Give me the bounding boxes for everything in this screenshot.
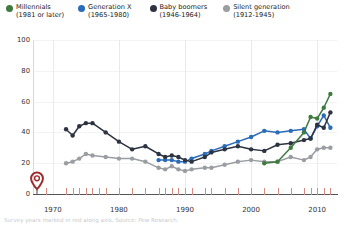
data-point xyxy=(289,129,293,133)
data-point xyxy=(70,133,74,137)
data-point xyxy=(189,159,193,163)
legend-dot-icon xyxy=(150,5,157,12)
data-point xyxy=(156,158,160,162)
legend-item-generation-x[interactable]: Generation X (1965-1980) xyxy=(78,3,131,19)
data-point xyxy=(308,115,312,119)
data-point xyxy=(302,130,306,134)
data-point xyxy=(84,121,88,125)
data-point xyxy=(322,106,326,110)
data-point xyxy=(222,147,226,151)
data-point xyxy=(328,92,332,96)
data-point xyxy=(130,156,134,160)
data-point xyxy=(176,167,180,171)
data-point xyxy=(203,166,207,170)
legend-sublabel: (1946-1964) xyxy=(160,11,208,19)
legend-label: Generation X xyxy=(88,3,131,11)
legend-sublabel: (1965-1980) xyxy=(88,11,131,19)
data-point xyxy=(183,169,187,173)
data-point xyxy=(64,161,68,165)
data-point xyxy=(209,166,213,170)
data-point xyxy=(315,116,319,120)
chart-figure: Millennials (1981 or later) Generation X… xyxy=(0,0,349,226)
data-point xyxy=(117,156,121,160)
data-point xyxy=(143,159,147,163)
data-point xyxy=(156,166,160,170)
x-axis-tick-label: 1970 xyxy=(44,206,62,214)
data-point xyxy=(156,152,160,156)
data-point xyxy=(130,147,134,151)
chart-legend: Millennials (1981 or later) Generation X… xyxy=(0,3,349,25)
data-point xyxy=(236,144,240,148)
data-point xyxy=(170,153,174,157)
data-point xyxy=(262,149,266,153)
y-axis-ticks: 020406080100 xyxy=(0,40,30,194)
data-point xyxy=(328,110,332,114)
x-axis-tick-label: 1980 xyxy=(110,206,128,214)
data-point xyxy=(222,163,226,167)
data-point xyxy=(249,135,253,139)
data-point xyxy=(77,156,81,160)
legend-dot-icon xyxy=(6,5,13,12)
legend-item-silent-generation[interactable]: Silent generation (1912-1945) xyxy=(223,3,290,19)
data-point xyxy=(308,155,312,159)
data-point xyxy=(262,161,266,165)
data-point xyxy=(163,167,167,171)
legend-item-baby-boomers[interactable]: Baby boomers (1946-1964) xyxy=(150,3,208,19)
data-point xyxy=(302,158,306,162)
x-axis-tick-label: 2010 xyxy=(308,206,326,214)
legend-label: Baby boomers xyxy=(160,3,208,11)
data-point xyxy=(328,146,332,150)
origin-pin-marker[interactable] xyxy=(29,171,45,195)
legend-label: Silent generation xyxy=(233,3,290,11)
data-point xyxy=(209,150,213,154)
data-point xyxy=(90,153,94,157)
data-point xyxy=(176,159,180,163)
legend-sublabel: (1981 or later) xyxy=(16,11,64,19)
series-generation-x xyxy=(156,113,332,164)
y-axis-tick-label: 80 xyxy=(2,67,30,75)
data-point xyxy=(176,155,180,159)
data-point xyxy=(203,155,207,159)
y-axis-tick-label: 40 xyxy=(2,128,30,136)
y-axis-tick-label: 0 xyxy=(2,190,30,198)
data-series-layer xyxy=(33,40,337,194)
data-point xyxy=(275,159,279,163)
data-point xyxy=(143,144,147,148)
chart-caption: Survey years marked in red along axis. S… xyxy=(4,217,344,224)
data-point xyxy=(170,158,174,162)
legend-sublabel: (1912-1945) xyxy=(233,11,290,19)
data-point xyxy=(275,130,279,134)
x-axis-tick-label: 2000 xyxy=(242,206,260,214)
data-point xyxy=(302,138,306,142)
data-point xyxy=(117,139,121,143)
data-point xyxy=(322,146,326,150)
data-point xyxy=(322,113,326,117)
x-axis-tick-label: 1990 xyxy=(176,206,194,214)
data-point xyxy=(315,123,319,127)
data-point xyxy=(328,126,332,130)
y-axis-tick-label: 20 xyxy=(2,159,30,167)
data-point xyxy=(322,126,326,130)
data-point xyxy=(163,155,167,159)
legend-dot-icon xyxy=(223,5,230,12)
data-point xyxy=(289,155,293,159)
legend-dot-icon xyxy=(78,5,85,12)
y-axis-tick-label: 60 xyxy=(2,98,30,106)
data-point xyxy=(289,146,293,150)
data-point xyxy=(90,121,94,125)
data-point xyxy=(249,158,253,162)
data-point xyxy=(104,155,108,159)
data-point xyxy=(70,159,74,163)
legend-label: Millennials xyxy=(16,3,64,11)
data-point xyxy=(189,167,193,171)
data-point xyxy=(249,147,253,151)
data-point xyxy=(262,129,266,133)
data-point xyxy=(84,152,88,156)
data-point xyxy=(236,159,240,163)
data-point xyxy=(77,124,81,128)
data-point xyxy=(183,158,187,162)
data-point xyxy=(315,147,319,151)
legend-item-millennials[interactable]: Millennials (1981 or later) xyxy=(6,3,64,19)
y-axis-tick-label: 100 xyxy=(2,36,30,44)
data-point xyxy=(170,164,174,168)
